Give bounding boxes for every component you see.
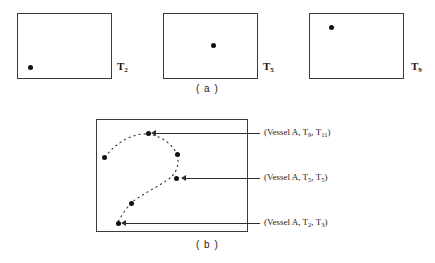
annotation-1-prefix: (Vessel A, T [264,127,308,137]
figure-page: T2 T5 T9 ( a ) (Vessel A, T9, T11) (Vess… [0,0,435,263]
panel-a-label-3: T9 [411,61,422,72]
annotation-2-sub2: 5 [321,176,324,183]
annotation-3-prefix: (Vessel A, T [264,217,308,227]
annotation-2-suffix: ) [324,172,327,182]
annotation-1: (Vessel A, T9, T11) [264,128,330,137]
trajectory-dot [175,152,180,157]
trajectory-dot [129,201,134,206]
annotation-3-sub1: 2 [308,221,311,228]
panel-a-label-2-sub: 5 [270,66,274,74]
annotation-1-sub1: 9 [308,131,311,138]
annotation-1-suffix: ) [327,127,330,137]
annotation-2-mid: , T [311,172,321,182]
panel-a-frame-1 [17,13,112,79]
annotation-3-suffix: ) [324,217,327,227]
panel-a-label-1: T2 [117,61,128,72]
panel-b-frame [96,119,248,232]
annotation-3: (Vessel A, T2, T3) [264,218,327,227]
panel-a-label-3-sub: 9 [418,66,422,74]
annotation-2: (Vessel A, T5, T5) [264,173,327,182]
trajectory-dot [174,176,179,181]
panel-a-frame-3 [309,13,404,79]
annotation-leader-3 [126,223,260,224]
annotation-leader-2 [186,178,260,179]
panel-a-caption: ( a ) [196,83,219,94]
trajectory-dot [102,155,107,160]
panel-a-label-1-sub: 2 [124,66,128,74]
panel-a-label-2: T5 [263,61,274,72]
vessel-dot [211,43,216,48]
annotation-1-mid: , T [311,127,321,137]
annotation-1-sub2: 11 [321,131,327,138]
annotation-leader-1 [156,133,260,134]
annotation-3-sub2: 3 [321,221,324,228]
panel-a-frame-2 [163,13,258,79]
vessel-dot [329,25,334,30]
panel-b-caption: ( b ) [196,239,219,250]
annotation-3-mid: , T [311,217,321,227]
annotation-2-sub1: 5 [308,176,311,183]
vessel-dot [28,65,33,70]
annotation-2-prefix: (Vessel A, T [264,172,308,182]
